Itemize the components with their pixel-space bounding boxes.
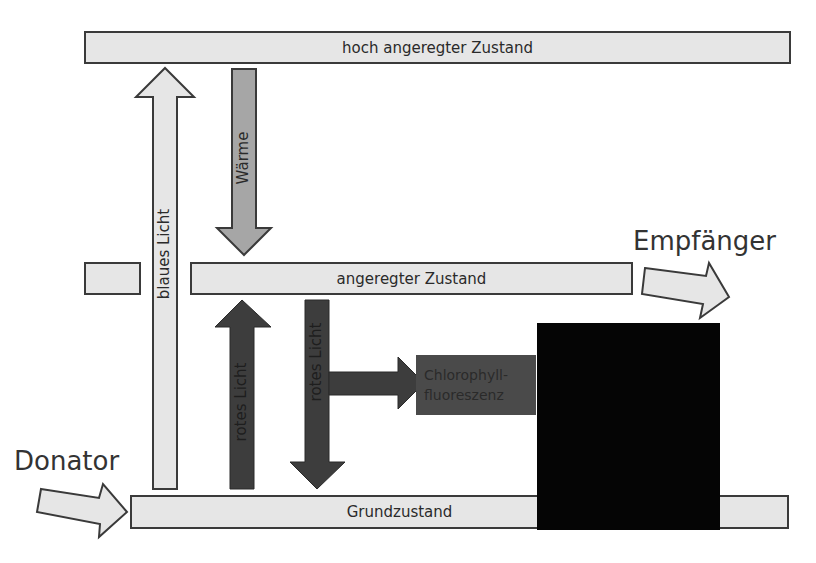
heat-label: Wärme [234,118,254,198]
donor-label: Donator [14,446,119,476]
acceptor-label: Empfänger [633,226,776,256]
chlorophyll-fluorescence-box: Chlorophyll- fluoreszenz [416,355,536,415]
fluorescence-arrow-icon [329,357,424,409]
blue-light-label: blaues Licht [155,194,175,314]
red-light-up-label: rotes Licht [232,352,252,452]
fluorescence-line-1: Chlorophyll- [424,365,536,385]
red-light-down-label: rotes Licht [307,312,327,412]
black-redaction-box [537,323,720,530]
acceptor-arrow-icon [642,263,729,318]
donor-arrow-icon [37,484,127,537]
fluorescence-line-2: fluoreszenz [424,385,536,405]
